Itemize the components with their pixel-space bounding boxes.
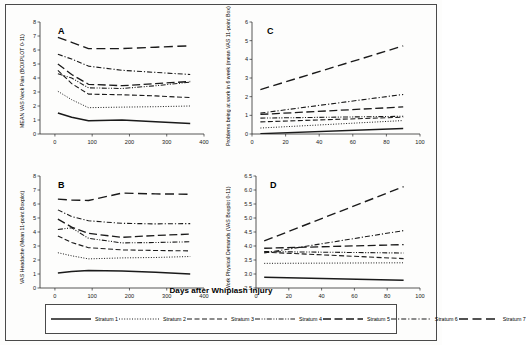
- series-line: [58, 74, 190, 89]
- svg-text:7: 7: [33, 187, 36, 193]
- svg-text:0: 0: [245, 131, 248, 137]
- legend-line-swatch: [322, 316, 364, 322]
- series-line: [264, 252, 403, 253]
- panel-b-ylabel: VAS Headache (Mean 11-point Boxplot): [19, 176, 27, 298]
- svg-text:6: 6: [245, 19, 248, 25]
- svg-text:2: 2: [33, 103, 36, 109]
- legend: Stratum 1Stratum 2Stratum 3Stratum 4Stra…: [45, 304, 397, 334]
- panel-a-ylabel: MEAN VAS Neck Pain (BOXPLOT 0-11): [19, 20, 27, 142]
- svg-text:2: 2: [33, 257, 36, 263]
- svg-text:200: 200: [125, 139, 134, 145]
- svg-text:6.0: 6.0: [244, 187, 252, 193]
- panel-a: MEAN VAS Neck Pain (BOXPLOT 0-11) A 0123…: [18, 12, 218, 157]
- series-line: [264, 187, 403, 241]
- svg-text:5: 5: [33, 61, 36, 67]
- svg-text:5.5: 5.5: [244, 201, 252, 207]
- svg-text:4.0: 4.0: [244, 243, 252, 249]
- legend-line-swatch: [118, 316, 160, 322]
- panel-c: Problems being at work in 6 week (mean V…: [224, 12, 434, 157]
- svg-text:8: 8: [33, 173, 36, 179]
- series-line: [58, 210, 190, 224]
- svg-text:60: 60: [350, 139, 356, 145]
- legend-line-swatch: [186, 316, 228, 322]
- svg-text:80: 80: [383, 139, 389, 145]
- svg-text:4: 4: [33, 229, 36, 235]
- series-line: [58, 271, 190, 275]
- svg-text:1: 1: [33, 271, 36, 277]
- panel-c-ylabel: Problems being at work in 6 week (mean V…: [225, 18, 239, 146]
- svg-text:3: 3: [33, 89, 36, 95]
- series-line: [58, 219, 190, 237]
- svg-text:0: 0: [33, 131, 36, 137]
- series-line: [58, 253, 190, 259]
- svg-text:1: 1: [33, 117, 36, 123]
- svg-text:3.5: 3.5: [244, 257, 252, 263]
- series-line: [260, 128, 403, 133]
- panel-b-letter: B: [58, 180, 65, 190]
- svg-text:4: 4: [33, 75, 36, 81]
- legend-item[interactable]: Stratum 2: [118, 316, 186, 322]
- svg-text:3: 3: [245, 75, 248, 81]
- svg-text:4.5: 4.5: [244, 229, 252, 235]
- legend-item[interactable]: Stratum 1: [50, 316, 118, 322]
- svg-text:2: 2: [245, 94, 248, 100]
- panel-d-letter: D: [270, 180, 277, 190]
- series-line: [264, 277, 403, 280]
- series-line: [260, 46, 403, 90]
- legend-item-label: Stratum 5: [367, 316, 390, 322]
- series-line: [264, 231, 403, 253]
- legend-item-label: Stratum 4: [299, 316, 322, 322]
- legend-item-label: Stratum 3: [231, 316, 254, 322]
- svg-text:100: 100: [88, 139, 97, 145]
- series-line: [58, 236, 190, 251]
- legend-item-label: Stratum 6: [435, 316, 458, 322]
- svg-text:3: 3: [33, 243, 36, 249]
- legend-line-swatch: [50, 316, 92, 322]
- svg-text:4: 4: [245, 56, 248, 62]
- svg-text:5: 5: [33, 215, 36, 221]
- svg-text:0: 0: [53, 139, 56, 145]
- svg-text:8: 8: [33, 19, 36, 25]
- legend-item[interactable]: Stratum 6: [390, 316, 458, 322]
- panel-a-plot: 0123456780100200300400: [18, 12, 218, 157]
- svg-text:3.0: 3.0: [244, 271, 252, 277]
- svg-text:1: 1: [245, 112, 248, 118]
- series-line: [260, 121, 403, 128]
- legend-item[interactable]: Stratum 3: [186, 316, 254, 322]
- panel-a-letter: A: [58, 26, 65, 36]
- legend-item-label: Stratum 7: [503, 316, 526, 322]
- svg-text:6: 6: [33, 201, 36, 207]
- svg-text:6.5: 6.5: [244, 173, 252, 179]
- legend-line-swatch: [458, 316, 500, 322]
- legend-grid: Stratum 1Stratum 2Stratum 3Stratum 4Stra…: [46, 305, 396, 333]
- legend-item-label: Stratum 2: [163, 316, 186, 322]
- legend-item-label: Stratum 1: [95, 316, 118, 322]
- svg-text:100: 100: [415, 139, 424, 145]
- series-line: [58, 91, 190, 107]
- svg-text:5: 5: [245, 38, 248, 44]
- svg-text:400: 400: [199, 139, 208, 145]
- legend-item[interactable]: Stratum 7: [458, 316, 526, 322]
- series-line: [58, 54, 190, 74]
- panel-c-letter: C: [267, 26, 274, 36]
- svg-text:40: 40: [316, 139, 322, 145]
- svg-text:300: 300: [162, 139, 171, 145]
- legend-line-swatch: [390, 316, 432, 322]
- svg-text:6: 6: [33, 47, 36, 53]
- svg-text:5.0: 5.0: [244, 215, 252, 221]
- panel-d-ylabel: Work Physical Demands (VAS Boxplot 0-11): [225, 174, 233, 302]
- legend-item[interactable]: Stratum 4: [254, 316, 322, 322]
- legend-item[interactable]: Stratum 5: [322, 316, 390, 322]
- svg-text:7: 7: [33, 33, 36, 39]
- series-line: [58, 193, 190, 200]
- svg-text:20: 20: [282, 139, 288, 145]
- x-axis-label: Days after Whiplash Injury: [0, 286, 442, 295]
- legend-line-swatch: [254, 316, 296, 322]
- series-line: [264, 245, 403, 249]
- series-line: [58, 113, 190, 124]
- panel-c-plot: 0123456020406080100: [224, 12, 434, 157]
- series-line: [58, 37, 190, 48]
- svg-text:0: 0: [250, 139, 253, 145]
- series-line: [264, 263, 403, 264]
